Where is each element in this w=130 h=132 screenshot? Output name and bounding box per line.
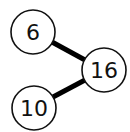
svg-text:6: 6 (26, 20, 40, 45)
part-node-6: 6 (11, 10, 55, 54)
part-node-10: 10 (12, 86, 56, 130)
svg-text:16: 16 (90, 58, 118, 83)
whole-node-16: 16 (82, 48, 126, 92)
number-bond-diagram: 6 16 10 (0, 0, 130, 132)
edge-10-to-16 (53, 80, 85, 97)
edge-6-to-16 (52, 42, 85, 60)
svg-text:10: 10 (20, 96, 48, 121)
